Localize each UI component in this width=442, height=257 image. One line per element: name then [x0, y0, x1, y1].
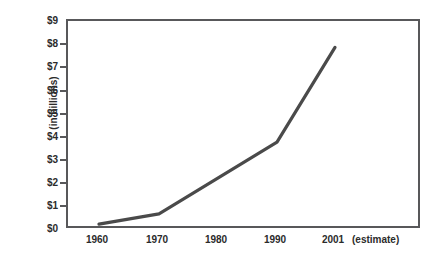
- y-tick-label: $5: [28, 108, 58, 119]
- x-tick-label: 1990: [264, 234, 286, 245]
- y-tick-label: $8: [28, 38, 58, 49]
- data-series-line: [99, 47, 335, 224]
- y-tick-label: $1: [28, 200, 58, 211]
- y-tick-label: $0: [28, 223, 58, 234]
- y-tick-label: $9: [28, 15, 58, 26]
- x-tick-label: 1960: [86, 234, 108, 245]
- y-tick-label: $3: [28, 154, 58, 165]
- line-chart: (in billions) $9 $8 $7 $6 $5 $4 $3 $2 $1…: [0, 0, 442, 257]
- x-tick-label: 1970: [146, 234, 168, 245]
- x-tick-label: 1980: [205, 234, 227, 245]
- x-axis-estimate-note: (estimate): [352, 234, 399, 245]
- y-tick-label: $4: [28, 131, 58, 142]
- x-tick-label: 2001: [322, 234, 344, 245]
- data-line-svg: [68, 21, 422, 230]
- plot-area: [66, 19, 420, 228]
- y-axis-tick-labels: $9 $8 $7 $6 $5 $4 $3 $2 $1 $0: [28, 0, 58, 257]
- x-axis-tick-labels: 1960 1970 1980 1990 2001 (estimate): [0, 234, 442, 252]
- y-tick-label: $6: [28, 85, 58, 96]
- y-tick-label: $7: [28, 61, 58, 72]
- y-tick-label: $2: [28, 177, 58, 188]
